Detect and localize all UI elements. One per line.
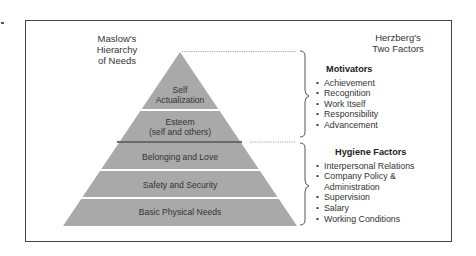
list-item: Recognition (316, 88, 378, 99)
herzberg-title: Herzberg's Two Factors (358, 32, 438, 54)
list-item: Work Itself (316, 99, 378, 110)
hygiene-group: Hygiene Factors Interpersonal Relations … (316, 147, 414, 224)
layer-label: Safety and Security (120, 180, 240, 190)
hygiene-title: Hygiene Factors (316, 147, 414, 158)
maslow-title-line: Maslow's (82, 33, 152, 44)
maslow-title-line: of Needs (82, 55, 152, 66)
list-item-text: Administration (324, 182, 380, 192)
layer-label: Self (140, 85, 220, 95)
layer-esteem: Esteem (self and others) (130, 117, 230, 137)
list-item: Company Policy & (316, 171, 414, 182)
hygiene-list: Interpersonal Relations Company Policy &… (316, 161, 414, 225)
motivators-title: Motivators (316, 64, 378, 75)
list-item: Responsibility (316, 109, 378, 120)
layer-label: Basic Physical Needs (110, 207, 250, 217)
layer-physical: Basic Physical Needs (110, 207, 250, 217)
layer-label: Belonging and Love (120, 152, 240, 162)
list-item: Advancement (316, 120, 378, 131)
list-item: Achievement (316, 78, 378, 89)
list-item: Working Conditions (316, 214, 414, 225)
herzberg-title-line: Herzberg's (358, 32, 438, 43)
motivators-group: Motivators Achievement Recognition Work … (316, 64, 378, 131)
pyramid (63, 52, 297, 226)
layer-self-actualization: Self Actualization (140, 85, 220, 105)
maslow-title-line: Hierarchy (82, 44, 152, 55)
motivators-list: Achievement Recognition Work Itself Resp… (316, 78, 378, 131)
list-item: Interpersonal Relations (316, 161, 414, 172)
motivators-bracket-icon (300, 51, 309, 137)
hygiene-bracket-icon (300, 143, 309, 225)
layer-label: Actualization (140, 95, 220, 105)
list-item: Salary (316, 203, 414, 214)
list-item-continuation: Administration (316, 182, 414, 193)
maslow-title: Maslow's Hierarchy of Needs (82, 33, 152, 66)
layer-label: (self and others) (130, 127, 230, 137)
layer-belonging: Belonging and Love (120, 152, 240, 162)
layer-label: Esteem (130, 117, 230, 127)
herzberg-title-line: Two Factors (358, 43, 438, 54)
list-item: Supervision (316, 192, 414, 203)
layer-safety: Safety and Security (120, 180, 240, 190)
